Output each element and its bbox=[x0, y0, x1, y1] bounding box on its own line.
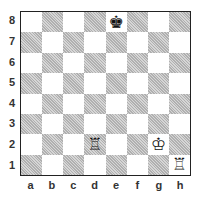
square-a3[interactable] bbox=[21, 114, 42, 134]
square-d6[interactable] bbox=[84, 53, 105, 73]
square-a4[interactable] bbox=[21, 94, 42, 114]
rank-label-2: 2 bbox=[7, 138, 17, 150]
square-b1[interactable] bbox=[42, 155, 63, 175]
file-label-e: e bbox=[106, 179, 127, 191]
square-c1[interactable] bbox=[63, 155, 84, 175]
square-a6[interactable] bbox=[21, 53, 42, 73]
rank-label-8: 8 bbox=[7, 14, 17, 26]
square-g4[interactable] bbox=[148, 94, 169, 114]
square-f5[interactable] bbox=[127, 73, 148, 93]
square-h8[interactable] bbox=[169, 12, 190, 32]
square-c7[interactable] bbox=[63, 32, 84, 52]
square-h7[interactable] bbox=[169, 32, 190, 52]
file-label-g: g bbox=[148, 179, 169, 191]
square-f6[interactable] bbox=[127, 53, 148, 73]
square-e2[interactable] bbox=[106, 134, 127, 154]
square-b2[interactable] bbox=[42, 134, 63, 154]
square-h6[interactable] bbox=[169, 53, 190, 73]
square-d5[interactable] bbox=[84, 73, 105, 93]
square-b4[interactable] bbox=[42, 94, 63, 114]
square-h1[interactable]: ♖ bbox=[169, 155, 190, 175]
square-g8[interactable] bbox=[148, 12, 169, 32]
rank-label-6: 6 bbox=[7, 56, 17, 68]
black-king-icon[interactable]: ♚ bbox=[108, 14, 123, 31]
square-c4[interactable] bbox=[63, 94, 84, 114]
square-h2[interactable] bbox=[169, 134, 190, 154]
square-c6[interactable] bbox=[63, 53, 84, 73]
square-h4[interactable] bbox=[169, 94, 190, 114]
square-b6[interactable] bbox=[42, 53, 63, 73]
square-d2[interactable]: ♖ bbox=[84, 134, 105, 154]
square-e3[interactable] bbox=[106, 114, 127, 134]
square-e6[interactable] bbox=[106, 53, 127, 73]
square-g3[interactable] bbox=[148, 114, 169, 134]
square-g6[interactable] bbox=[148, 53, 169, 73]
rank-label-1: 1 bbox=[7, 159, 17, 171]
square-d4[interactable] bbox=[84, 94, 105, 114]
chess-board: ♚♖♔♖ bbox=[20, 11, 191, 176]
square-b5[interactable] bbox=[42, 73, 63, 93]
square-c3[interactable] bbox=[63, 114, 84, 134]
square-d7[interactable] bbox=[84, 32, 105, 52]
square-g7[interactable] bbox=[148, 32, 169, 52]
square-d8[interactable] bbox=[84, 12, 105, 32]
white-king-icon[interactable]: ♔ bbox=[151, 136, 166, 153]
square-e4[interactable] bbox=[106, 94, 127, 114]
square-f7[interactable] bbox=[127, 32, 148, 52]
square-c2[interactable] bbox=[63, 134, 84, 154]
file-label-a: a bbox=[20, 179, 41, 191]
square-f8[interactable] bbox=[127, 12, 148, 32]
file-label-h: h bbox=[170, 179, 191, 191]
square-e7[interactable] bbox=[106, 32, 127, 52]
rank-label-4: 4 bbox=[7, 97, 17, 109]
file-label-d: d bbox=[84, 179, 105, 191]
white-rook-icon[interactable]: ♖ bbox=[87, 136, 102, 153]
square-f2[interactable] bbox=[127, 134, 148, 154]
square-g2[interactable]: ♔ bbox=[148, 134, 169, 154]
square-b7[interactable] bbox=[42, 32, 63, 52]
square-h5[interactable] bbox=[169, 73, 190, 93]
rank-label-5: 5 bbox=[7, 76, 17, 88]
square-f3[interactable] bbox=[127, 114, 148, 134]
square-d1[interactable] bbox=[84, 155, 105, 175]
square-h3[interactable] bbox=[169, 114, 190, 134]
square-g1[interactable] bbox=[148, 155, 169, 175]
white-rook-icon[interactable]: ♖ bbox=[172, 156, 187, 173]
square-b3[interactable] bbox=[42, 114, 63, 134]
square-f1[interactable] bbox=[127, 155, 148, 175]
square-b8[interactable] bbox=[42, 12, 63, 32]
square-e1[interactable] bbox=[106, 155, 127, 175]
file-label-f: f bbox=[127, 179, 148, 191]
square-a1[interactable] bbox=[21, 155, 42, 175]
square-g5[interactable] bbox=[148, 73, 169, 93]
rank-label-7: 7 bbox=[7, 35, 17, 47]
square-e5[interactable] bbox=[106, 73, 127, 93]
square-d3[interactable] bbox=[84, 114, 105, 134]
file-label-b: b bbox=[41, 179, 62, 191]
square-a7[interactable] bbox=[21, 32, 42, 52]
file-label-c: c bbox=[63, 179, 84, 191]
rank-label-3: 3 bbox=[7, 117, 17, 129]
square-e8[interactable]: ♚ bbox=[106, 12, 127, 32]
square-a2[interactable] bbox=[21, 134, 42, 154]
square-c8[interactable] bbox=[63, 12, 84, 32]
square-c5[interactable] bbox=[63, 73, 84, 93]
square-a5[interactable] bbox=[21, 73, 42, 93]
square-a8[interactable] bbox=[21, 12, 42, 32]
square-f4[interactable] bbox=[127, 94, 148, 114]
